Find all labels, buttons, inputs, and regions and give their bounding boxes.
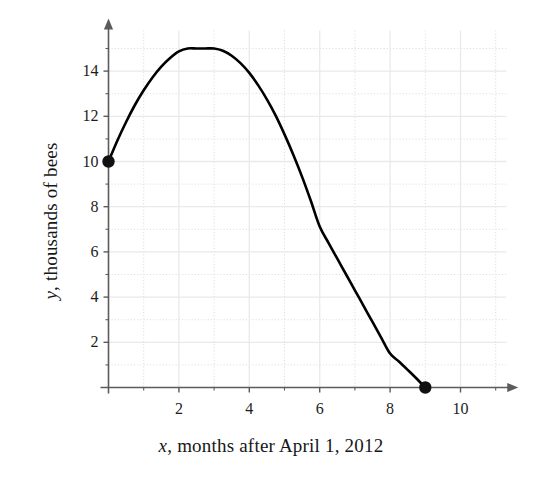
- x-tick-label: 2: [175, 400, 183, 418]
- y-tick-label: 4: [69, 288, 99, 306]
- x-axis-arrow-icon: [507, 383, 518, 392]
- x-axis-title-variable: x: [159, 435, 168, 456]
- y-tick-label: 14: [69, 62, 99, 80]
- x-tick-label: 8: [386, 400, 394, 418]
- marker-end-point: [419, 381, 431, 393]
- y-axis-title: y, thousands of bees: [40, 66, 62, 376]
- x-tick-label: 4: [245, 400, 253, 418]
- x-tick-label: 10: [453, 400, 469, 418]
- axes-layer: [101, 18, 519, 393]
- x-axis-title-text: , months after April 1, 2012: [167, 435, 383, 456]
- y-tick-label: 12: [69, 107, 99, 125]
- bee-population-curve: [109, 48, 426, 387]
- y-axis-title-variable: y: [40, 291, 61, 300]
- x-tick-label: 6: [316, 400, 324, 418]
- data-curve-layer: [109, 48, 426, 387]
- y-axis-title-text: , thousands of bees: [40, 142, 61, 290]
- grid-minor-layer: [109, 30, 507, 387]
- x-axis-title: x, months after April 1, 2012: [0, 435, 542, 457]
- y-tick-label: 10: [69, 153, 99, 171]
- axis-ticks-layer: [104, 49, 496, 393]
- grid-major-layer: [109, 30, 507, 387]
- y-tick-label: 2: [69, 333, 99, 351]
- data-point-markers: [102, 155, 431, 393]
- y-tick-label: 6: [69, 243, 99, 261]
- bee-population-chart: 2468102468101214 x, months after April 1…: [0, 0, 542, 477]
- y-axis-arrow-icon: [104, 18, 113, 29]
- marker-start-point: [102, 155, 114, 167]
- y-tick-label: 8: [69, 198, 99, 216]
